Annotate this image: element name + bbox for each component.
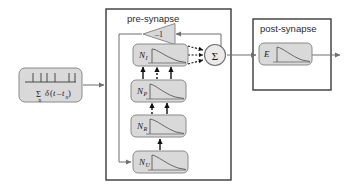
block-N-P-subscript: P bbox=[143, 91, 148, 97]
block-N-I[interactable]: N I bbox=[133, 44, 188, 66]
arrow-NI-to-sum-1 bbox=[188, 46, 203, 50]
svg-text:): ) bbox=[68, 88, 71, 98]
block-N-U[interactable]: N U bbox=[133, 151, 188, 173]
svg-text:n: n bbox=[39, 97, 42, 103]
summation-symbol: Σ bbox=[212, 50, 218, 62]
block-N-R-subscript: R bbox=[143, 126, 148, 132]
block-N-U-subscript: U bbox=[146, 162, 151, 168]
block-E[interactable]: E bbox=[259, 43, 312, 65]
block-N-R[interactable]: N R bbox=[131, 115, 186, 137]
summation-node[interactable]: Σ bbox=[205, 45, 226, 66]
sum-input-arrow-group bbox=[188, 46, 203, 64]
inverting-gain-block[interactable]: –1 bbox=[143, 24, 175, 45]
block-E-letter: E bbox=[263, 49, 270, 59]
gain-value-label: –1 bbox=[154, 30, 163, 39]
arrow-NI-to-sum-3 bbox=[188, 60, 203, 64]
figure-canvas: pre-synapse post-synapse bbox=[0, 0, 345, 188]
spike-train-input-block[interactable]: Σ n δ ( t – t n ) bbox=[19, 68, 82, 103]
block-N-P[interactable]: N P bbox=[131, 80, 186, 102]
stage-arrow-group bbox=[143, 67, 171, 150]
pre-synapse-label: pre-synapse bbox=[127, 13, 179, 24]
post-synapse-label: post-synapse bbox=[260, 23, 317, 34]
block-diagram: pre-synapse post-synapse bbox=[0, 0, 345, 188]
